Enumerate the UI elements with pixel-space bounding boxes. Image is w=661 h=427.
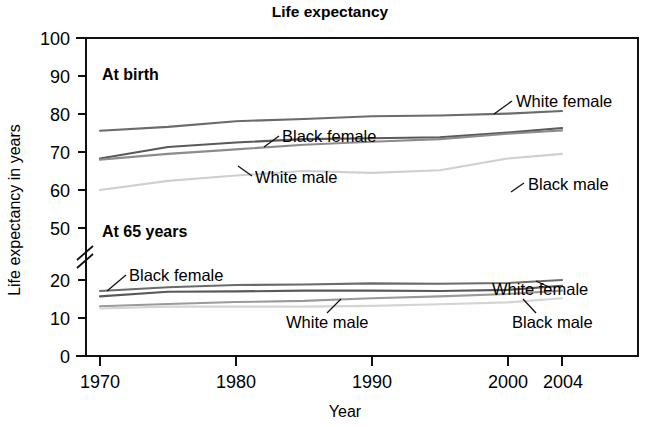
chart-canvas: Life expectancy Life expectancy in years… bbox=[0, 0, 661, 427]
annotation-white-male-at-birth: White male bbox=[255, 168, 338, 186]
annotation-black-male-at-birth: Black male bbox=[528, 175, 609, 193]
y-tick-marks bbox=[76, 38, 86, 356]
annotation-black-female-at-65: Black female bbox=[129, 266, 223, 284]
y-tick-label-90: 90 bbox=[50, 67, 70, 87]
annotation-white-female-at-65: White female bbox=[492, 280, 588, 298]
y-tick-label-60: 60 bbox=[50, 181, 70, 201]
panel-label-at-65-years: At 65 years bbox=[102, 223, 187, 240]
panel-label-at-birth: At birth bbox=[102, 66, 159, 83]
y-tick-label-100: 100 bbox=[40, 29, 70, 49]
x-tick-label-1980: 1980 bbox=[216, 372, 256, 392]
y-tick-label-0: 0 bbox=[60, 347, 70, 367]
y-tick-label-20: 20 bbox=[50, 271, 70, 291]
chart-title: Life expectancy bbox=[272, 3, 389, 20]
y-tick-label-80: 80 bbox=[50, 105, 70, 125]
y-tick-label-70: 70 bbox=[50, 143, 70, 163]
y-axis-label: Life expectancy in years bbox=[6, 124, 23, 296]
annotation-black-male-at-65: Black male bbox=[512, 313, 593, 331]
x-tick-label-2004: 2004 bbox=[543, 372, 583, 392]
annotation-white-female-at-birth: White female bbox=[516, 92, 612, 110]
x-tick-label-2000: 2000 bbox=[488, 372, 528, 392]
y-tick-label-50: 50 bbox=[50, 219, 70, 239]
x-tick-marks bbox=[100, 356, 562, 366]
x-tick-label-1990: 1990 bbox=[352, 372, 392, 392]
x-tick-label-1970: 1970 bbox=[80, 372, 120, 392]
annotation-black-female-at-birth: Black female bbox=[282, 127, 376, 145]
plot-frame bbox=[86, 38, 638, 356]
x-axis-label: Year bbox=[329, 403, 362, 420]
life-expectancy-chart: Life expectancy Life expectancy in years… bbox=[0, 0, 661, 427]
annotation-white-male-at-65: White male bbox=[286, 313, 369, 331]
y-tick-label-10: 10 bbox=[50, 309, 70, 329]
